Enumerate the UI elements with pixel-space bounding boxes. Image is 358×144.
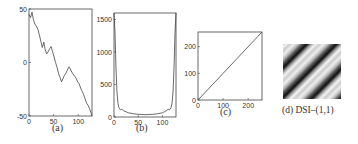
- y-tick-label: 50: [19, 6, 27, 13]
- y-tick-label: 100: [184, 70, 196, 77]
- x-tick-label: 200: [242, 102, 254, 109]
- x-tick-label: 0: [112, 119, 116, 126]
- y-tick-label: 1500: [96, 16, 112, 23]
- plot-frame: [114, 13, 176, 117]
- plot-frame: [29, 9, 92, 116]
- caption-c: (c): [220, 106, 231, 117]
- y-tick-label: 0: [192, 97, 196, 104]
- y-tick-label: 0: [108, 114, 112, 121]
- line-plot-b: 050100050010001500: [85, 0, 185, 144]
- y-tick-label: 0: [23, 59, 27, 66]
- chart-d: (d) DSI–(1,1): [270, 0, 358, 144]
- x-tick-label: 100: [72, 118, 84, 125]
- x-tick-label: 0: [27, 118, 31, 125]
- y-tick-label: 500: [100, 81, 112, 88]
- x-tick-label: 100: [157, 119, 169, 126]
- caption-d: (d) DSI–(1,1): [282, 105, 334, 115]
- y-tick-label: -50: [17, 113, 27, 120]
- data-line: [198, 32, 262, 100]
- y-tick-label: 200: [184, 43, 196, 50]
- caption-a: (a): [52, 122, 63, 133]
- line-plot-c: 01002000100200: [180, 0, 270, 144]
- data-line: [114, 13, 176, 115]
- dsi-image: [283, 44, 341, 99]
- x-tick-label: 0: [196, 102, 200, 109]
- chart-c: 01002000100200 (c): [180, 0, 270, 144]
- caption-b: (b): [136, 122, 148, 133]
- y-tick-label: 1000: [96, 49, 112, 56]
- chart-b: 050100050010001500 (b): [85, 0, 185, 144]
- data-line: [29, 12, 92, 116]
